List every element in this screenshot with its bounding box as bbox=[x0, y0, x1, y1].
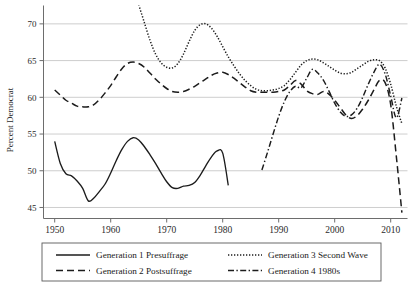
legend-label: Generation 2 Postsuffrage bbox=[96, 266, 192, 276]
x-tick-label: 1970 bbox=[157, 225, 176, 235]
series-line-4 bbox=[262, 64, 402, 170]
series-line-3 bbox=[139, 5, 402, 124]
legend-label: Generation 1 Presuffrage bbox=[96, 250, 188, 260]
y-tick-label: 55 bbox=[28, 129, 38, 139]
line-chart: 455055606570 195019601970198019902000201… bbox=[0, 0, 417, 287]
x-tick-label: 1960 bbox=[101, 225, 120, 235]
x-tick-label: 2010 bbox=[381, 225, 400, 235]
x-tick-label: 1950 bbox=[45, 225, 64, 235]
axis-ticks bbox=[40, 24, 391, 223]
x-tick-label: 1980 bbox=[213, 225, 232, 235]
y-tick-label: 45 bbox=[28, 203, 38, 213]
x-tick-label: 1990 bbox=[269, 225, 288, 235]
plot-frame bbox=[44, 6, 408, 219]
legend-label: Generation 3 Second Wave bbox=[268, 250, 368, 260]
y-tick-label: 70 bbox=[28, 19, 38, 29]
y-axis-tick-labels: 455055606570 bbox=[28, 19, 38, 213]
y-axis-title: Percent Democrat bbox=[5, 87, 15, 152]
chart-figure: 455055606570 195019601970198019902000201… bbox=[0, 0, 417, 287]
y-tick-label: 65 bbox=[28, 56, 38, 66]
data-series-group bbox=[55, 5, 402, 213]
series-line-2 bbox=[55, 62, 402, 213]
legend-label: Generation 4 1980s bbox=[268, 266, 340, 276]
series-line-1 bbox=[55, 138, 229, 202]
chart-legend: Generation 1 PresuffrageGeneration 2 Pos… bbox=[42, 243, 381, 281]
y-tick-label: 60 bbox=[28, 93, 38, 103]
gridlines bbox=[44, 24, 408, 208]
y-tick-label: 50 bbox=[28, 166, 38, 176]
x-tick-label: 2000 bbox=[325, 225, 344, 235]
x-axis-tick-labels: 1950196019701980199020002010 bbox=[45, 225, 400, 235]
